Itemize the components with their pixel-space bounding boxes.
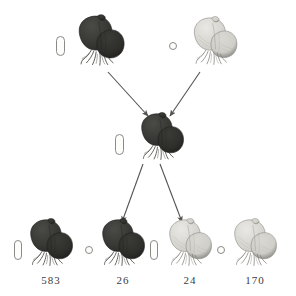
specimen-p1 xyxy=(70,12,132,70)
specimen-o4 xyxy=(226,216,284,270)
specimen-f1 xyxy=(133,110,191,164)
specimen-o1 xyxy=(22,216,80,270)
female-symbol xyxy=(217,246,225,254)
specimen-o3 xyxy=(161,216,219,270)
female-symbol xyxy=(85,246,93,254)
specimen-o2 xyxy=(94,216,152,270)
female-symbol xyxy=(169,42,177,50)
offspring-count-o4: 170 xyxy=(212,274,296,286)
genetic-cross-figure: 583 xyxy=(0,0,296,296)
cross-arrow-f1-to-o2 xyxy=(122,164,143,222)
specimen-p2 xyxy=(186,14,244,69)
male-symbol xyxy=(56,36,65,56)
cross-arrow-f1-to-o3 xyxy=(160,164,182,222)
male-symbol xyxy=(115,134,124,155)
male-symbol xyxy=(150,240,158,260)
male-symbol xyxy=(14,240,22,260)
